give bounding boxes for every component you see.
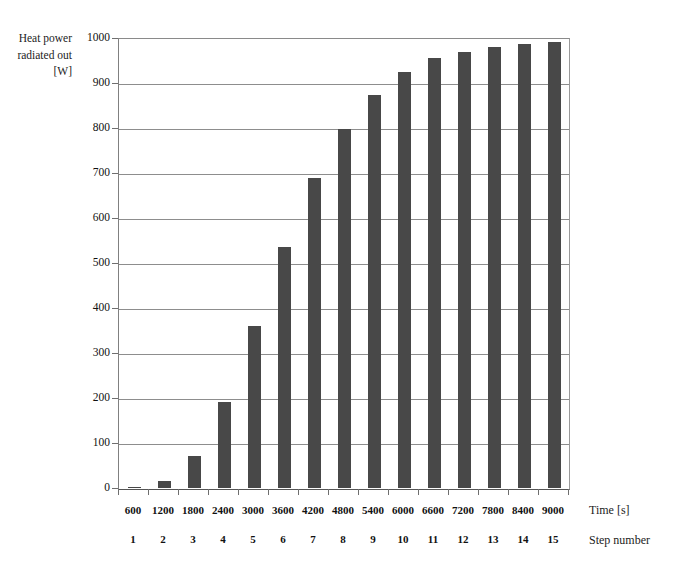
y-tick-mark (112, 218, 118, 219)
bar-chart: Heat power radiated out [W] 010020030040… (0, 0, 678, 575)
y-tick-mark (112, 83, 118, 84)
y-tick-mark (112, 38, 118, 39)
bar (308, 178, 321, 488)
bar (338, 129, 351, 488)
bar (158, 481, 171, 488)
x-tick-mark (448, 489, 449, 495)
y-tick-label: 700 (70, 166, 110, 178)
bar (248, 326, 261, 488)
x-axis-caption-time: Time [s] (589, 503, 630, 518)
y-tick-mark (112, 443, 118, 444)
y-tick-label: 900 (70, 76, 110, 88)
bar (398, 72, 411, 488)
bar (488, 47, 501, 488)
y-tick-label: 100 (70, 436, 110, 448)
bar (428, 58, 441, 488)
x-tick-mark (538, 489, 539, 495)
y-tick-label: 1000 (70, 31, 110, 43)
bar (548, 42, 561, 488)
bars-layer (118, 38, 568, 488)
x-tick-mark (328, 489, 329, 495)
y-tick-mark (112, 398, 118, 399)
x-tick-mark (208, 489, 209, 495)
x-time-label: 9000 (533, 504, 573, 516)
y-tick-mark (112, 308, 118, 309)
bar (218, 402, 231, 488)
y-tick-label: 400 (70, 301, 110, 313)
bar (368, 95, 381, 488)
y-tick-label: 300 (70, 346, 110, 358)
bar (188, 456, 201, 488)
x-tick-mark (388, 489, 389, 495)
bar (458, 52, 471, 489)
y-tick-mark (112, 263, 118, 264)
bar (128, 487, 141, 488)
x-tick-mark (268, 489, 269, 495)
y-tick-label: 500 (70, 256, 110, 268)
y-tick-mark (112, 128, 118, 129)
y-tick-label: 600 (70, 211, 110, 223)
x-axis-caption-step: Step number (589, 533, 650, 548)
bar (278, 247, 291, 488)
y-tick-label: 0 (70, 481, 110, 493)
x-tick-mark (118, 489, 119, 495)
y-tick-mark (112, 353, 118, 354)
x-tick-mark (148, 489, 149, 495)
y-axis-title: Heat power radiated out [W] (0, 30, 72, 80)
x-tick-mark (238, 489, 239, 495)
y-tick-mark (112, 173, 118, 174)
x-tick-mark (418, 489, 419, 495)
x-step-label: 15 (533, 533, 573, 545)
y-tick-label: 800 (70, 121, 110, 133)
bar (518, 44, 531, 488)
x-tick-mark (508, 489, 509, 495)
x-tick-mark (358, 489, 359, 495)
x-tick-mark (478, 489, 479, 495)
x-tick-mark (178, 489, 179, 495)
x-tick-mark (298, 489, 299, 495)
x-tick-mark (568, 489, 569, 495)
y-tick-label: 200 (70, 391, 110, 403)
